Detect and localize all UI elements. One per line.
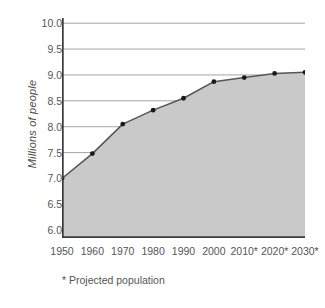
y-axis-tick-label: 9.0	[22, 70, 62, 81]
y-axis-tick-label: 10.0	[22, 18, 62, 29]
plot-area	[62, 18, 305, 238]
data-point-marker	[181, 96, 186, 101]
data-point-marker	[242, 75, 247, 80]
plot-svg	[62, 18, 305, 238]
y-axis-tick-label: 8.5	[22, 96, 62, 107]
y-axis-tick-label: 7.5	[22, 148, 62, 159]
data-point-marker	[120, 122, 125, 127]
y-axis-tick-label: 6.0	[22, 225, 62, 236]
y-axis-tick-label: 7.0	[22, 173, 62, 184]
y-axis-tick-label: 8.0	[22, 122, 62, 133]
y-axis-tick-label: 9.5	[22, 44, 62, 55]
data-point-marker	[272, 71, 277, 76]
data-point-marker	[151, 108, 156, 113]
population-area-chart: Millions of people 10.09.59.08.58.07.57.…	[0, 0, 325, 308]
y-axis-tick-label: 6.5	[22, 199, 62, 210]
footnote-projected-population: * Projected population	[62, 274, 165, 286]
x-axis-tick-labels: 1950196019701980199020002010*2020*2030*	[0, 246, 325, 264]
x-axis-tick-label: 2030*	[283, 246, 325, 257]
data-point-marker	[90, 151, 95, 156]
data-point-marker	[211, 79, 216, 84]
